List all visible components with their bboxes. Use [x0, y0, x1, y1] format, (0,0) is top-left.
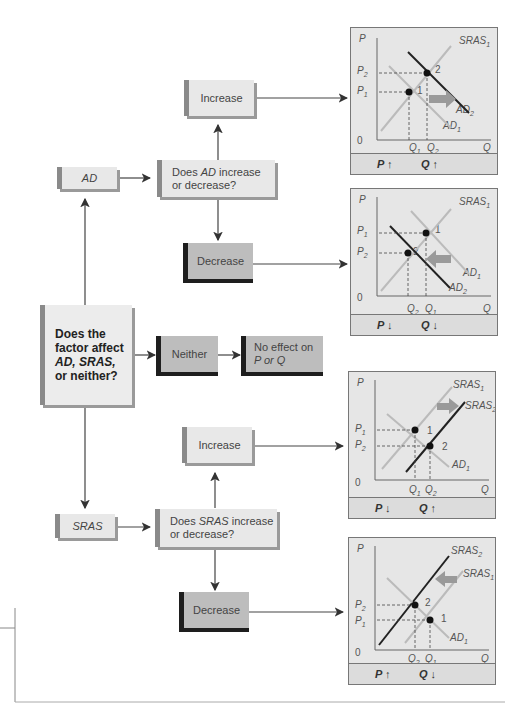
- svg-text:SRAS1: SRAS1: [459, 35, 490, 48]
- main-question-line1: Does the: [55, 327, 124, 341]
- sras-increase-box: Increase: [182, 427, 252, 463]
- sras-decrease-box: Decrease: [179, 592, 249, 632]
- svg-text:2: 2: [425, 597, 431, 608]
- svg-text:AD2: AD2: [448, 282, 467, 295]
- svg-text:P2: P2: [355, 599, 366, 612]
- svg-text:SRAS2: SRAS2: [465, 400, 495, 413]
- sras-decrease-label: Decrease: [184, 604, 249, 617]
- ad-decrease-label: Decrease: [188, 255, 253, 268]
- svg-text:P2: P2: [355, 439, 366, 452]
- chart-sras-increase: P P1 P2 0 Q1 Q2 Q SRAS1 SRAS2 AD1 1 2 P …: [348, 371, 496, 519]
- footer-price: P ↓: [377, 319, 393, 331]
- svg-text:P1: P1: [357, 85, 368, 98]
- svg-text:2: 2: [442, 441, 448, 452]
- svg-text:Q1: Q1: [425, 653, 437, 663]
- no-effect-line1: No effect on: [254, 341, 313, 354]
- sras-label: SRAS: [60, 520, 115, 533]
- main-question-line2: factor affect: [55, 341, 124, 355]
- sras-box: SRAS: [55, 514, 115, 538]
- svg-text:P2: P2: [357, 246, 368, 259]
- svg-text:1: 1: [427, 425, 433, 436]
- svg-text:P1: P1: [357, 225, 368, 238]
- svg-text:P: P: [359, 194, 366, 205]
- no-effect-line2: P or Q: [254, 354, 313, 367]
- neither-label: Neither: [161, 348, 218, 361]
- ad-question-var: AD: [201, 166, 216, 178]
- svg-text:Q1: Q1: [425, 303, 437, 314]
- svg-text:0: 0: [355, 647, 361, 658]
- footer-price: P ↑: [377, 158, 393, 170]
- sras-question-line2: or decrease?: [170, 528, 273, 541]
- svg-text:Q: Q: [481, 653, 489, 663]
- main-question-line4: or neither?: [55, 369, 124, 383]
- svg-text:SRAS1: SRAS1: [453, 379, 484, 392]
- ad-decrease-box: Decrease: [183, 243, 253, 283]
- ad-increase-label: Increase: [189, 92, 254, 105]
- svg-text:Q2: Q2: [425, 484, 437, 497]
- svg-text:Q: Q: [481, 484, 489, 495]
- sras-question-box: Does SRAS increase or decrease?: [155, 509, 277, 547]
- ad-question-post: increase: [216, 166, 261, 178]
- svg-text:Q2: Q2: [427, 142, 439, 153]
- footer-quantity: Q ↓: [421, 319, 438, 331]
- footer-price: P ↓: [375, 502, 391, 514]
- svg-text:1: 1: [441, 613, 447, 624]
- svg-text:P2: P2: [357, 65, 368, 78]
- svg-text:SRAS2: SRAS2: [451, 545, 482, 558]
- chart-sras-decrease: P P2 P1 0 Q2 Q1 Q SRAS2 SRAS1 AD1 2 1 P …: [348, 537, 496, 685]
- svg-text:Q2: Q2: [408, 653, 420, 663]
- svg-text:Q1: Q1: [409, 142, 421, 153]
- ad-question-box: Does AD increase or decrease?: [157, 160, 275, 197]
- svg-text:Q2: Q2: [407, 303, 419, 314]
- ad-question-pre: Does: [172, 166, 201, 178]
- chart-ad-decrease: P P1 P2 0 Q2 Q1 Q SRAS1 AD1 AD2 1 2 P ↓Q…: [350, 188, 498, 336]
- sras-increase-label: Increase: [187, 439, 252, 452]
- svg-text:Q: Q: [483, 142, 491, 153]
- footer-quantity: Q ↑: [421, 158, 438, 170]
- sras-question-post: increase: [229, 515, 274, 527]
- ad-question-line2: or decrease?: [172, 179, 261, 192]
- no-effect-box: No effect on P or Q: [241, 336, 323, 376]
- svg-text:P: P: [357, 377, 364, 388]
- sras-question-var: SRAS: [199, 515, 229, 527]
- neither-box: Neither: [156, 336, 218, 376]
- svg-text:SRAS1: SRAS1: [463, 568, 494, 581]
- sras-question-pre: Does: [170, 515, 199, 527]
- main-question-box: Does the factor affect AD, SRAS, or neit…: [40, 305, 132, 405]
- ad-box: AD: [57, 167, 117, 189]
- svg-text:P: P: [359, 33, 366, 44]
- main-question-line3: AD, SRAS,: [55, 355, 124, 369]
- svg-text:SRAS1: SRAS1: [459, 196, 490, 209]
- ad-label: AD: [62, 172, 117, 185]
- footer-quantity: Q ↓: [419, 668, 436, 680]
- svg-text:0: 0: [357, 135, 363, 146]
- footer-price: P ↑: [375, 668, 391, 680]
- svg-text:Q1: Q1: [409, 484, 421, 497]
- svg-text:P1: P1: [355, 423, 366, 436]
- svg-text:AD2: AD2: [455, 104, 474, 117]
- svg-text:0: 0: [355, 477, 361, 488]
- svg-text:P1: P1: [355, 615, 366, 628]
- svg-text:AD1: AD1: [451, 459, 470, 472]
- svg-text:AD1: AD1: [449, 632, 468, 645]
- footer-quantity: Q ↑: [419, 502, 436, 514]
- svg-text:P: P: [357, 543, 364, 554]
- svg-text:Q: Q: [483, 303, 491, 314]
- svg-text:0: 0: [357, 292, 363, 303]
- chart-ad-increase: P P2 P1 0 Q1 Q2 Q SRAS1 AD2 AD1 2 1 P ↑Q…: [350, 27, 498, 175]
- ad-increase-box: Increase: [184, 80, 254, 116]
